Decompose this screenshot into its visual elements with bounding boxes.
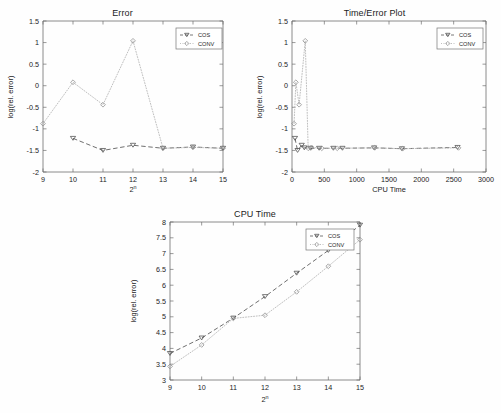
time-error-chart-svg: 050010001500200025003000-2-1.5-1-0.500.5… bbox=[248, 4, 501, 200]
subplot-error: Error 9101112131415-2-1.5-1-0.500.511.5 … bbox=[0, 4, 245, 200]
y-tick-label: 0.5 bbox=[278, 60, 288, 69]
y-tick-label: 6 bbox=[162, 281, 166, 290]
x-tick-label: 9 bbox=[41, 175, 45, 184]
error-legend[interactable]: COS CONV bbox=[176, 28, 222, 49]
x-tick-label: 10 bbox=[69, 175, 77, 184]
y-tick-label: 1 bbox=[284, 38, 288, 47]
legend-label-cos: COS bbox=[328, 233, 340, 239]
y-tick-label: 1 bbox=[35, 38, 39, 47]
x-tick-label: 3000 bbox=[478, 175, 494, 184]
legend-label-conv: CONV bbox=[459, 41, 475, 47]
y-tick-label: 7.5 bbox=[156, 233, 166, 242]
cpu-time-xaxis-label: 2n bbox=[261, 394, 268, 404]
x-tick-label: 9 bbox=[168, 383, 172, 392]
y-tick-label: 0.5 bbox=[29, 60, 39, 69]
error-xaxis-label: 2n bbox=[129, 184, 136, 194]
x-tick-label: 2000 bbox=[413, 175, 429, 184]
y-tick-label: 7 bbox=[162, 249, 166, 258]
y-tick-label: -1.5 bbox=[276, 146, 288, 155]
y-tick-label: 6.5 bbox=[156, 265, 166, 274]
figure-canvas: Error 9101112131415-2-1.5-1-0.500.511.5 … bbox=[0, 0, 501, 413]
legend-label-cos: COS bbox=[198, 32, 210, 38]
y-tick-label: 0 bbox=[284, 81, 288, 90]
x-tick-label: 13 bbox=[293, 383, 301, 392]
cos-line bbox=[73, 138, 223, 150]
x-tick-label: 11 bbox=[230, 383, 237, 392]
y-tick-label: 5.5 bbox=[156, 297, 166, 306]
conv-line bbox=[294, 41, 458, 149]
y-tick-label: -2 bbox=[282, 168, 288, 177]
x-tick-label: 10 bbox=[198, 383, 206, 392]
cpu-time-chart-svg: 910111213141533.544.555.566.577.58 2n lo… bbox=[110, 204, 400, 413]
cpu-time-legend[interactable]: COS CONV bbox=[306, 229, 354, 250]
x-tick-label: 12 bbox=[261, 383, 269, 392]
y-tick-label: -1 bbox=[282, 124, 288, 133]
subplot-cpu-time: CPU Time 910111213141533.544.555.566.577… bbox=[110, 204, 400, 413]
subplot-time-error: Time/Error Plot 050010001500200025003000… bbox=[248, 4, 501, 200]
y-tick-label: -1.5 bbox=[27, 146, 39, 155]
plot-title-cpu-time: CPU Time bbox=[110, 209, 400, 219]
error-series bbox=[41, 38, 226, 152]
y-tick-label: -0.5 bbox=[27, 103, 39, 112]
y-tick-label: -0.5 bbox=[276, 103, 288, 112]
y-tick-label: 3 bbox=[162, 376, 166, 385]
x-tick-label: 15 bbox=[356, 383, 364, 392]
error-yaxis-label: log(rel. error) bbox=[6, 76, 15, 119]
y-tick-label: 0 bbox=[35, 81, 39, 90]
y-tick-label: 3.5 bbox=[156, 360, 166, 369]
x-tick-label: 12 bbox=[129, 175, 137, 184]
x-tick-label: 1500 bbox=[381, 175, 397, 184]
triangle-down-marker bbox=[199, 336, 204, 340]
plot-title-error: Error bbox=[0, 8, 245, 18]
plot-title-time-error: Time/Error Plot bbox=[248, 8, 501, 18]
time-error-series bbox=[292, 38, 461, 152]
time-error-yaxis-label: log(rel. error) bbox=[255, 76, 264, 119]
y-tick-label: -1 bbox=[33, 124, 39, 133]
x-tick-label: 1000 bbox=[349, 175, 365, 184]
cpu-time-yaxis-label: log(rel. error) bbox=[129, 280, 138, 323]
legend-label-conv: CONV bbox=[328, 242, 344, 248]
x-tick-label: 13 bbox=[159, 175, 167, 184]
x-tick-label: 14 bbox=[324, 383, 332, 392]
y-tick-label: 5 bbox=[162, 312, 166, 321]
time-error-xaxis-label: CPU Time bbox=[372, 185, 406, 194]
conv-line bbox=[43, 41, 223, 148]
y-tick-label: 4.5 bbox=[156, 328, 166, 337]
conv-line bbox=[170, 240, 360, 367]
x-tick-label: 15 bbox=[219, 175, 227, 184]
x-tick-label: 11 bbox=[99, 175, 106, 184]
x-tick-label: 500 bbox=[318, 175, 330, 184]
error-chart-svg: 9101112131415-2-1.5-1-0.500.511.5 2n log… bbox=[0, 4, 245, 200]
time-error-legend[interactable]: COS CONV bbox=[437, 28, 483, 49]
legend-label-conv: CONV bbox=[198, 41, 214, 47]
legend-label-cos: COS bbox=[459, 32, 471, 38]
x-tick-label: 2500 bbox=[446, 175, 462, 184]
y-tick-label: 4 bbox=[162, 344, 166, 353]
x-tick-label: 14 bbox=[189, 175, 197, 184]
x-tick-label: 0 bbox=[290, 175, 294, 184]
y-tick-label: -2 bbox=[33, 168, 39, 177]
triangle-down-marker bbox=[299, 143, 304, 147]
